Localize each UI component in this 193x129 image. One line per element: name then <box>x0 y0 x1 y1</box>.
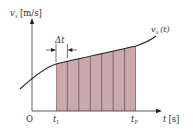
delta-t-bracket <box>46 44 77 62</box>
riemann-bars <box>56 40 136 111</box>
t-final-label: tF <box>131 114 138 125</box>
curve-label: vx(t) <box>151 25 170 35</box>
t-initial-label: tI <box>53 114 59 125</box>
y-axis-arrow-icon <box>30 18 34 24</box>
x-axis-label: t[s] <box>163 114 179 124</box>
velocity-riemann-diagram: Δt vx[m/s] vx(t) O tI tF t[s] <box>0 0 193 129</box>
bar-area <box>56 40 136 111</box>
delta-t-label: Δt <box>54 35 65 45</box>
delta-t-right-arrow-icon <box>67 48 72 52</box>
x-axis-arrow-icon <box>156 109 162 113</box>
origin-label: O <box>26 114 33 124</box>
y-axis-label: vx[m/s] <box>10 8 42 19</box>
delta-t-left-arrow-icon <box>51 48 56 52</box>
